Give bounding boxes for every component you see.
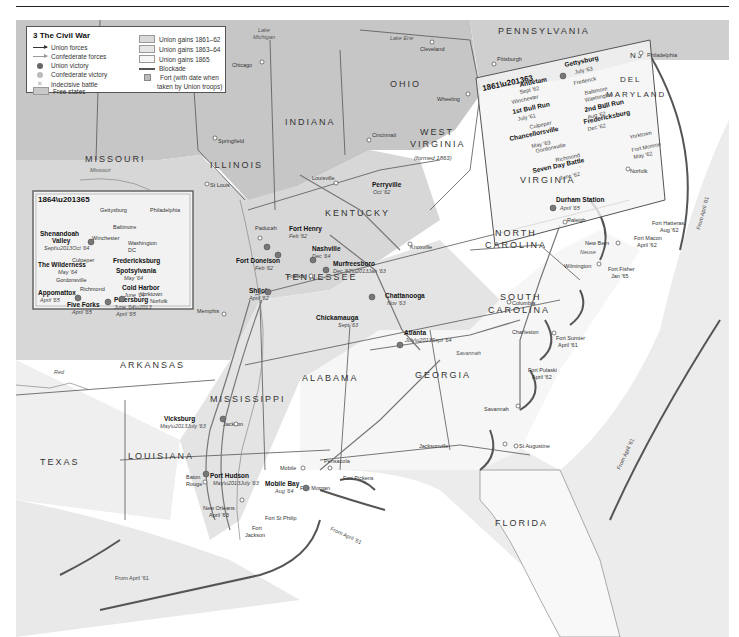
svg-text:Chattanooga: Chattanooga <box>385 292 425 300</box>
svg-text:Fort St Philip: Fort St Philip <box>265 515 296 521</box>
svg-text:Lake: Lake <box>258 27 270 33</box>
svg-text:Fort Fisher: Fort Fisher <box>608 266 635 272</box>
svg-text:Savannah: Savannah <box>484 406 509 412</box>
svg-text:Fredericksburg: Fredericksburg <box>113 257 160 265</box>
svg-text:Port Hudson: Port Hudson <box>210 472 249 479</box>
svg-text:DC: DC <box>128 247 136 253</box>
svg-text:Wilmington: Wilmington <box>564 263 591 269</box>
svg-text:April '61: April '61 <box>558 342 578 348</box>
svg-text:Feb '62: Feb '62 <box>289 233 307 239</box>
svg-text:Sept '63: Sept '63 <box>338 322 359 328</box>
svg-text:Jackson: Jackson <box>245 532 265 538</box>
svg-text:Charleston: Charleston <box>512 329 539 335</box>
svg-text:April '63: April '63 <box>209 512 229 518</box>
svg-text:(formed 1863): (formed 1863) <box>414 155 452 161</box>
svg-text:May '64: May '64 <box>124 275 143 281</box>
svg-text:Fort Macon: Fort Macon <box>634 235 662 241</box>
legend-confederate-victory: Confederate victory <box>33 71 107 78</box>
svg-text:Mobile Bay: Mobile Bay <box>265 480 300 488</box>
gains-1861-swatch <box>139 35 155 43</box>
svg-text:Appomattox: Appomattox <box>38 289 76 297</box>
svg-text:OHIO: OHIO <box>390 79 421 89</box>
svg-text:ARKANSAS: ARKANSAS <box>120 360 185 370</box>
svg-text:April '65: April '65 <box>559 205 581 211</box>
svg-text:New Bern: New Bern <box>585 240 609 246</box>
svg-text:June '64: June '64 <box>123 292 145 298</box>
svg-text:Neuse: Neuse <box>580 249 596 255</box>
svg-text:Fort Pulaski: Fort Pulaski <box>528 367 557 373</box>
svg-text:Philadelphia: Philadelphia <box>647 52 678 58</box>
svg-text:Raleigh: Raleigh <box>567 217 586 223</box>
svg-text:INDIANA: INDIANA <box>285 117 336 127</box>
svg-text:Murfreesboro: Murfreesboro <box>333 260 375 267</box>
confederate-victory-icon <box>37 72 43 78</box>
svg-text:April '65: April '65 <box>39 297 61 303</box>
confederate-forces-arrow-icon <box>33 56 47 57</box>
svg-text:July\u2013Sept '64: July\u2013Sept '64 <box>404 337 452 343</box>
svg-text:Memphis: Memphis <box>197 308 220 314</box>
svg-text:June '64\u2013: June '64\u2013 <box>113 304 152 310</box>
svg-text:NORTH: NORTH <box>495 228 537 238</box>
free-states-swatch <box>33 87 49 95</box>
svg-text:Nov '63: Nov '63 <box>387 300 406 306</box>
svg-text:St Augustine: St Augustine <box>519 443 550 449</box>
svg-text:April '65: April '65 <box>115 311 137 317</box>
svg-text:DEL: DEL <box>620 75 642 84</box>
svg-text:Feb '62: Feb '62 <box>255 265 273 271</box>
svg-text:Springfield: Springfield <box>218 138 244 144</box>
svg-text:Sept\u2013Oct '64: Sept\u2013Oct '64 <box>44 245 89 251</box>
svg-text:Washington: Washington <box>128 240 157 246</box>
svg-text:Shenandoah: Shenandoah <box>40 230 79 237</box>
svg-text:St Louis: St Louis <box>210 182 230 188</box>
svg-text:Red: Red <box>54 369 65 375</box>
svg-text:Rouge: Rouge <box>186 481 202 487</box>
svg-text:PENNSYLVANIA: PENNSYLVANIA <box>498 26 590 36</box>
svg-text:TEXAS: TEXAS <box>40 457 80 467</box>
svg-text:Spotsylvania: Spotsylvania <box>116 267 156 275</box>
svg-text:Valley: Valley <box>52 237 71 245</box>
gains-1865-swatch <box>139 55 155 63</box>
svg-text:CAROLINA: CAROLINA <box>488 305 550 315</box>
svg-text:Missouri: Missouri <box>90 167 111 173</box>
svg-text:Columbia: Columbia <box>512 300 536 306</box>
svg-text:Baton: Baton <box>186 474 200 480</box>
svg-text:Cleveland: Cleveland <box>420 46 444 52</box>
svg-text:Chickamauga: Chickamauga <box>316 314 359 322</box>
svg-text:FLORIDA: FLORIDA <box>495 518 548 528</box>
legend-union-forces: Union forces <box>33 44 88 51</box>
svg-text:ILLINOIS: ILLINOIS <box>210 160 263 170</box>
svg-text:Pensacola: Pensacola <box>324 458 351 464</box>
legend-fort-note: taken by Union troops) <box>157 83 222 90</box>
fort-icon <box>144 74 151 81</box>
legend-blockade: Blockade <box>139 65 186 72</box>
svg-text:Richmond: Richmond <box>80 286 105 292</box>
legend-gains-1863: Union gains 1863–64 <box>139 45 220 53</box>
union-victory-icon <box>37 63 43 69</box>
legend-confederate-forces: Confederate forces <box>33 53 106 60</box>
svg-text:From April '61: From April '61 <box>115 575 149 581</box>
svg-text:April '62: April '62 <box>248 295 269 301</box>
svg-text:Perryville: Perryville <box>372 181 402 189</box>
svg-text:Winchester: Winchester <box>92 235 120 241</box>
svg-text:Savannah: Savannah <box>456 350 481 356</box>
svg-text:MISSOURI: MISSOURI <box>85 154 146 164</box>
map-legend: 3 The Civil War Union forces Confederate… <box>26 26 226 93</box>
svg-text:Pittsburgh: Pittsburgh <box>497 56 522 62</box>
svg-text:April '62: April '62 <box>532 374 552 380</box>
legend-title: 3 The Civil War <box>33 31 90 40</box>
svg-text:Jan '65: Jan '65 <box>611 273 629 279</box>
civil-war-map: MISSOURI ILLINOIS INDIANA OHIO PENNSYLVA… <box>16 16 729 637</box>
svg-text:Baltimore: Baltimore <box>113 224 136 230</box>
svg-text:Vicksburg: Vicksburg <box>164 415 195 423</box>
svg-text:The Wilderness: The Wilderness <box>38 261 86 268</box>
svg-text:Fort Pickens: Fort Pickens <box>343 475 374 481</box>
svg-text:Durham Station: Durham Station <box>556 196 604 203</box>
svg-text:ALABAMA: ALABAMA <box>302 373 359 383</box>
svg-text:MISSISSIPPI: MISSISSIPPI <box>210 394 286 404</box>
svg-text:Atlanta: Atlanta <box>404 329 426 336</box>
svg-text:1864\u201365: 1864\u201365 <box>38 195 90 204</box>
blockade-line-icon <box>139 68 155 70</box>
svg-text:Aug '62: Aug '62 <box>660 227 678 233</box>
svg-text:VIRGINIA: VIRGINIA <box>410 139 466 149</box>
svg-text:Nashville: Nashville <box>312 245 341 252</box>
